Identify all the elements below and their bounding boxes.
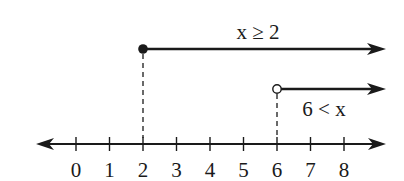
tick-label: 4 [205,158,216,181]
number-line-diagram: 012345678 x ≥ 2 6 < x [0,0,404,181]
ray-6-lt-x: 6 < x [273,83,386,138]
closed-endpoint-icon [138,44,148,54]
ray-label-x-ge-2: x ≥ 2 [236,20,279,44]
ray-x-ge-2: x ≥ 2 [138,20,386,138]
tick-label: 2 [138,158,149,181]
open-endpoint-icon [273,85,281,93]
tick-label: 1 [104,158,115,181]
axis-tick-labels: 012345678 [71,158,350,181]
tick-label: 0 [71,158,82,181]
tick-label: 3 [171,158,182,181]
tick-label: 8 [339,158,350,181]
ray-label-6-lt-x: 6 < x [302,97,346,121]
tick-label: 7 [305,158,316,181]
number-line-svg: 012345678 x ≥ 2 6 < x [0,0,404,181]
tick-label: 6 [272,158,283,181]
number-line-axis: 012345678 [36,137,386,181]
tick-label: 5 [238,158,249,181]
